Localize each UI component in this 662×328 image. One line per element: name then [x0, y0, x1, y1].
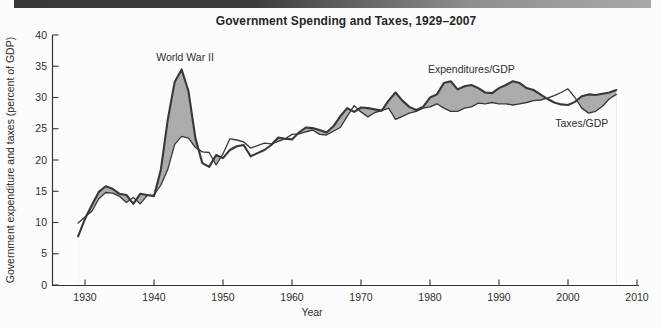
- y-tick-label: 40: [35, 29, 47, 41]
- x-tick-label: 1960: [280, 291, 304, 303]
- world-war-ii-label: World War II: [156, 51, 214, 63]
- x-tick-label: 1940: [142, 291, 166, 303]
- y-tick-label: 35: [35, 60, 47, 72]
- y-tick-label: 30: [35, 91, 47, 103]
- y-tick-label: 15: [35, 185, 47, 197]
- y-tick-label: 20: [35, 154, 47, 166]
- chart-canvas: 0510152025303540193019401950196019701980…: [0, 0, 662, 328]
- y-tick-label: 0: [41, 279, 47, 291]
- y-tick-label: 10: [35, 216, 47, 228]
- x-tick-label: 1980: [418, 291, 442, 303]
- expenditures-series-label: Expenditures/GDP: [428, 63, 515, 75]
- x-tick-label: 1990: [487, 291, 511, 303]
- x-tick-label: 2000: [556, 291, 580, 303]
- x-tick-label: 1930: [73, 291, 97, 303]
- y-tick-label: 5: [41, 247, 47, 259]
- x-tick-label: 1970: [349, 291, 373, 303]
- taxes-series-label: Taxes/GDP: [555, 117, 608, 129]
- x-axis-title: Year: [301, 306, 323, 318]
- x-tick-label: 2010: [625, 291, 649, 303]
- y-axis-title: Government expenditure and taxes (percen…: [4, 37, 16, 283]
- y-tick-label: 25: [35, 122, 47, 134]
- x-tick-label: 1950: [211, 291, 235, 303]
